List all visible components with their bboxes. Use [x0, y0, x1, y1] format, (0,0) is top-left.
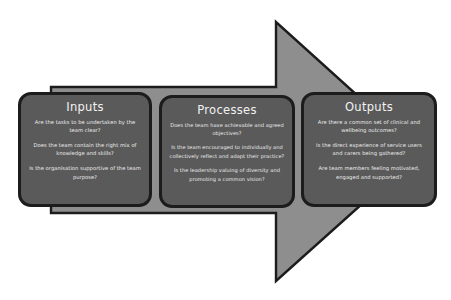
- stage-title-outputs: Outputs: [345, 101, 393, 114]
- question-item: Does the team contain the right mix of k…: [28, 141, 142, 158]
- question-list-inputs: Are the tasks to be undertaken by the te…: [28, 118, 142, 181]
- question-item: Are there a common set of clinical and w…: [311, 118, 427, 135]
- process-arrow-diagram: Inputs Are the tasks to be undertaken by…: [0, 0, 451, 300]
- question-item: Are the tasks to be undertaken by the te…: [28, 118, 142, 135]
- stage-box-outputs[interactable]: Outputs Are there a common set of clinic…: [301, 92, 437, 207]
- question-item: Is the leadership valuing of diversity a…: [169, 166, 285, 183]
- question-item: Is the organisation supportive of the te…: [28, 164, 142, 181]
- question-item: Is the direct experience of service user…: [311, 141, 427, 158]
- question-list-outputs: Are there a common set of clinical and w…: [311, 118, 427, 181]
- question-item: Is the team encouraged to individually a…: [169, 143, 285, 160]
- question-item: Does the team have achievable and agreed…: [169, 121, 285, 138]
- question-item: Are team members feeling motivated, enga…: [311, 164, 427, 181]
- stage-title-processes: Processes: [197, 104, 256, 117]
- stage-title-inputs: Inputs: [66, 101, 104, 114]
- question-list-processes: Does the team have achievable and agreed…: [169, 121, 285, 183]
- stage-box-inputs[interactable]: Inputs Are the tasks to be undertaken by…: [18, 92, 152, 207]
- stage-box-processes[interactable]: Processes Does the team have achievable …: [159, 95, 295, 208]
